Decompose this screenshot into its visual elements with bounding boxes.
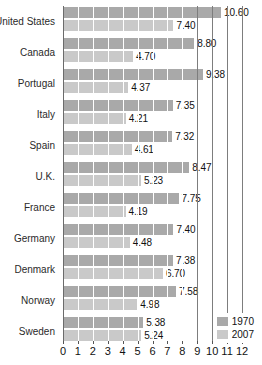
bar-1970 [63, 38, 194, 49]
bar-value-label: 7.35 [176, 100, 195, 111]
legend-swatch [217, 317, 228, 326]
bar-group: 10.607.40 [63, 6, 242, 37]
legend-label: 1970 [232, 316, 254, 327]
bar-group: 7.354.21 [63, 99, 242, 130]
bar-2007 [63, 268, 163, 279]
bar-2007 [63, 113, 126, 124]
bar-1970 [63, 7, 221, 18]
plot-area: 10.607.408.804.709.384.377.354.217.324.6… [63, 6, 242, 347]
category-label: Spain [0, 130, 59, 161]
bar-group: 7.584.98 [63, 285, 242, 316]
bar-2007 [63, 330, 141, 341]
bar-value-label: 8.80 [197, 38, 216, 49]
bar-value-label: 10.60 [224, 7, 249, 18]
bar-1970 [63, 69, 203, 80]
category-label: Portugal [0, 68, 59, 99]
category-label: France [0, 192, 59, 223]
bar-value-label: 7.58 [179, 286, 198, 297]
bar-group: 7.386.70 [63, 254, 242, 285]
bar-1970 [63, 317, 143, 328]
category-label: United States [0, 6, 59, 37]
bar-value-label: 7.75 [182, 193, 201, 204]
bar-value-label: 4.21 [129, 113, 148, 124]
category-label: Italy [0, 99, 59, 130]
bar-value-label: 4.70 [136, 51, 155, 62]
category-label: Germany [0, 223, 59, 254]
bar-value-label: 4.98 [140, 299, 159, 310]
bar-value-label: 4.61 [135, 144, 154, 155]
legend-label: 2007 [232, 329, 254, 340]
bar-rows: 10.607.408.804.709.384.377.354.217.324.6… [63, 6, 242, 347]
bar-2007 [63, 51, 133, 62]
bar-value-label: 7.40 [176, 224, 195, 235]
bar-2007 [63, 237, 130, 248]
bar-value-label: 4.37 [131, 82, 150, 93]
bar-1970 [63, 286, 176, 297]
bar-value-label: 7.38 [176, 255, 195, 266]
gridline [242, 6, 243, 341]
bar-group: 8.475.23 [63, 161, 242, 192]
bar-2007 [63, 144, 132, 155]
bar-2007 [63, 206, 126, 217]
bar-2007 [63, 82, 128, 93]
bar-1970 [63, 162, 189, 173]
category-axis-labels: United StatesCanadaPortugalItalySpainU.K… [0, 6, 59, 347]
category-label: Canada [0, 37, 59, 68]
legend-swatch [217, 330, 228, 339]
bar-value-label: 6.70 [166, 268, 185, 279]
bar-group: 9.384.37 [63, 68, 242, 99]
bar-1970 [63, 131, 172, 142]
bar-1970 [63, 224, 173, 235]
bar-value-label: 8.47 [192, 162, 211, 173]
bar-2007 [63, 175, 141, 186]
bar-1970 [63, 100, 173, 111]
bar-1970 [63, 255, 173, 266]
category-label: Denmark [0, 254, 59, 285]
legend: 19702007 [215, 313, 257, 343]
bar-value-label: 4.48 [133, 237, 152, 248]
category-label: U.K. [0, 161, 59, 192]
bar-value-label: 5.23 [144, 175, 163, 186]
bar-2007 [63, 20, 173, 31]
bar-group: 8.804.70 [63, 37, 242, 68]
bar-1970 [63, 193, 179, 204]
bar-chart: United StatesCanadaPortugalItalySpainU.K… [0, 0, 262, 365]
bar-value-label: 4.19 [129, 206, 148, 217]
bar-value-label: 5.38 [146, 317, 165, 328]
bar-value-label: 5.24 [144, 330, 163, 341]
bar-group: 7.404.48 [63, 223, 242, 254]
legend-item: 2007 [217, 328, 254, 341]
bar-group: 7.324.61 [63, 130, 242, 161]
legend-item: 1970 [217, 315, 254, 328]
bar-value-label: 7.40 [176, 20, 195, 31]
bar-value-label: 9.38 [206, 69, 225, 80]
category-label: Sweden [0, 316, 59, 347]
bar-2007 [63, 299, 137, 310]
bar-value-label: 7.32 [175, 131, 194, 142]
bar-group: 7.754.19 [63, 192, 242, 223]
category-label: Norway [0, 285, 59, 316]
